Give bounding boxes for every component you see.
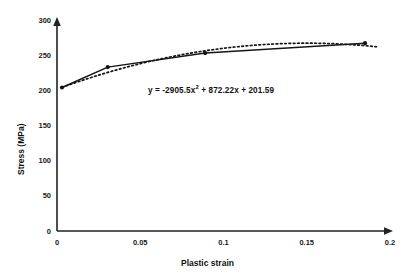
x-tick-label-015: 0.15	[292, 238, 322, 247]
x-tick-label-005: 0.05	[125, 238, 155, 247]
y-tick-label-100: 100	[25, 156, 51, 165]
equation-prefix: y = -2905.5x	[148, 86, 195, 95]
y-tick-label-250: 250	[25, 51, 51, 60]
data-point-marker	[106, 65, 110, 69]
x-tick-label-02: 0.2	[375, 238, 405, 247]
x-tick-label-0: 0	[42, 238, 72, 247]
y-tick-label-200: 200	[25, 86, 51, 95]
y-tick-label-150: 150	[25, 121, 51, 130]
data-point-marker	[60, 85, 64, 89]
trendline-equation-annotation: y = -2905.5x2 + 872.22x + 201.59	[148, 84, 274, 95]
x-axis-title: Plastic strain	[0, 258, 415, 268]
chart-plot-area	[0, 0, 415, 278]
trendline-dotted	[62, 43, 377, 87]
stress-strain-chart: 0 50 100 150 200 250 300 0 0.05 0.1 0.15…	[0, 0, 415, 278]
y-axis-arrowhead	[53, 17, 61, 26]
y-tick-label-300: 300	[25, 16, 51, 25]
y-tick-label-50: 50	[25, 191, 51, 200]
y-axis-title: Stress (MPa)	[16, 124, 26, 176]
x-axis-arrowhead	[384, 227, 393, 235]
equation-suffix: + 872.22x + 201.59	[199, 86, 274, 95]
data-point-marker	[363, 41, 367, 45]
data-point-markers	[60, 41, 367, 90]
x-tick-label-01: 0.1	[209, 238, 239, 247]
y-tick-label-0: 0	[25, 227, 51, 236]
data-point-marker	[203, 51, 207, 55]
